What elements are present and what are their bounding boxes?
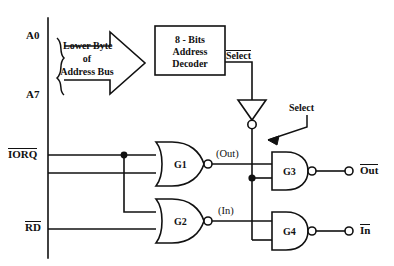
select-junction-dot xyxy=(248,174,255,181)
inverter-body xyxy=(238,100,266,120)
decoder-box-line3: Decoder xyxy=(155,58,225,70)
bus-label-a7: A7 xyxy=(26,89,39,100)
in-paren-label: (In) xyxy=(218,206,234,217)
rd-label-text: RD xyxy=(25,221,41,234)
circuit-diagram-canvas: A0 A7 Lower Byte of Address Bus 8 - Bits… xyxy=(0,0,394,266)
bus-label-a0: A0 xyxy=(26,30,39,41)
out-terminal-icon xyxy=(345,167,353,175)
iorq-label-text: IORQ xyxy=(8,148,37,161)
g3-label: G3 xyxy=(283,167,296,177)
iorq-branch-wire xyxy=(124,155,156,212)
in-terminal-icon xyxy=(345,227,353,235)
g4-output-bubble-icon xyxy=(308,227,316,235)
in-terminal-label-text: In xyxy=(360,224,370,237)
iorq-junction-dot xyxy=(121,152,128,159)
iorq-label: IORQ xyxy=(8,148,37,161)
arrow-block-line3: Address Bus xyxy=(58,66,116,79)
g2-output-bubble-icon xyxy=(204,217,212,225)
select-bar-label: Select xyxy=(226,50,251,62)
in-terminal-label: In xyxy=(360,224,370,237)
g2-label: G2 xyxy=(174,217,187,227)
g3-output-bubble-icon xyxy=(308,167,316,175)
decoder-box-line2: Address xyxy=(155,46,225,58)
g1-label: G1 xyxy=(174,160,187,170)
arrow-block-line1: Lower Byte xyxy=(63,40,111,53)
inverter-bubble-icon xyxy=(248,120,256,128)
g4-label: G4 xyxy=(283,227,296,237)
select-callout-label: Select xyxy=(289,103,314,113)
select-callout-leader xyxy=(268,115,307,140)
decoder-box-line1: 8 - Bits xyxy=(155,34,225,46)
arrow-block-line2: of xyxy=(63,53,111,66)
rd-label: RD xyxy=(25,221,41,234)
out-terminal-label-text: Out xyxy=(360,164,378,177)
out-paren-label: (Out) xyxy=(216,149,239,160)
out-terminal-label: Out xyxy=(360,164,378,177)
g1-output-bubble-icon xyxy=(204,160,212,168)
select-wire xyxy=(225,62,252,100)
select-callout-arrowhead-icon xyxy=(268,136,279,145)
select-bar-label-text: Select xyxy=(226,50,251,62)
